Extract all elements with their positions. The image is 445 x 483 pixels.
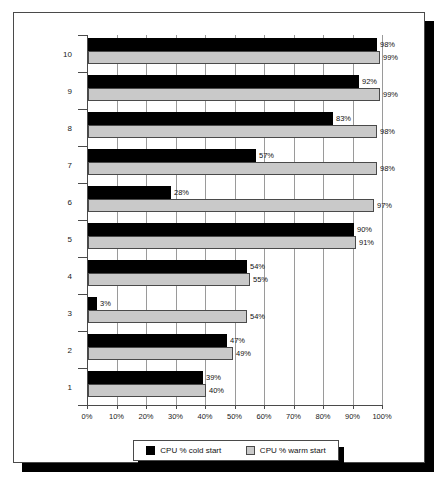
bar-value-label: 47% [230,336,245,345]
bar-cold-start [88,223,354,236]
bar-value-label: 3% [100,299,111,308]
y-axis-tick [78,220,87,221]
y-axis-category-label: 7 [44,161,72,170]
x-axis-tick-label: 50% [220,412,250,421]
bar-value-label: 98% [380,164,395,173]
x-axis-tick-label: 60% [249,412,279,421]
x-axis-tick [205,405,206,409]
bar-value-label: 28% [174,188,189,197]
y-axis-category-label: 10 [44,50,72,59]
bar-cold-start [88,297,97,310]
legend-swatch-warm-icon [246,446,255,455]
y-axis-category-label: 2 [44,346,72,355]
bar-value-label: 99% [383,53,398,62]
bar-warm-start [88,125,377,138]
legend-label: CPU % warm start [260,446,326,455]
y-axis-category-label: 6 [44,198,72,207]
plot-area: 10987654321 0%10%20%30%40%50%60%70%80%90… [74,35,404,410]
bar-cold-start [88,149,256,162]
legend-item: CPU % warm start [246,446,326,455]
bar-cold-start [88,186,171,199]
x-axis-tick-label: 10% [102,412,132,421]
y-axis-tick [78,257,87,258]
bar-warm-start [88,384,206,397]
bar-warm-start [88,236,356,249]
bar-value-label: 98% [380,127,395,136]
y-axis-category-label: 5 [44,235,72,244]
y-axis-category-label: 4 [44,272,72,281]
bar-value-label: 97% [377,201,392,210]
y-axis-tick [78,331,87,332]
chart-legend: CPU % cold startCPU % warm start [133,440,339,461]
bar-warm-start [88,199,374,212]
bar-value-label: 91% [359,238,374,247]
x-axis-tick [146,405,147,409]
bar-value-label: 57% [259,151,274,160]
legend-label: CPU % cold start [160,446,221,455]
bar-cold-start [88,38,377,51]
x-axis-tick [294,405,295,409]
y-axis-category-label: 3 [44,309,72,318]
bar-warm-start [88,51,380,64]
y-axis-tick [78,72,87,73]
legend-item: CPU % cold start [146,446,221,455]
bar-value-label: 54% [250,262,265,271]
x-axis-tick [117,405,118,409]
screenshot-root: 10987654321 0%10%20%30%40%50%60%70%80%90… [0,0,445,483]
bar-cold-start [88,260,247,273]
bar-warm-start [88,162,377,175]
bar-warm-start [88,310,247,323]
bar-value-label: 99% [383,90,398,99]
x-axis-tick-label: 40% [190,412,220,421]
y-axis-tick [78,294,87,295]
x-axis-tick-label: 100% [367,412,397,421]
bar-cold-start [88,75,359,88]
x-axis-tick [353,405,354,409]
x-axis-tick [264,405,265,409]
y-axis-tick [78,146,87,147]
x-axis-tick [87,405,88,409]
bar-value-label: 92% [362,77,377,86]
bar-warm-start [88,88,380,101]
bar-value-label: 55% [253,275,268,284]
y-axis-tick [78,368,87,369]
y-axis-tick [78,183,87,184]
y-axis-category-label: 9 [44,87,72,96]
bar-cold-start [88,371,203,384]
x-axis-tick-label: 70% [279,412,309,421]
y-axis-tick [78,35,87,36]
bar-value-label: 39% [206,373,221,382]
y-axis-tick [78,109,87,110]
x-axis-tick-label: 0% [72,412,102,421]
x-axis-tick [235,405,236,409]
x-axis-tick-label: 90% [338,412,368,421]
bar-cold-start [88,112,333,125]
y-axis-category-label: 8 [44,124,72,133]
bar-warm-start [88,273,250,286]
bar-value-label: 83% [336,114,351,123]
chart-frame: 10987654321 0%10%20%30%40%50%60%70%80%90… [13,12,425,463]
x-axis-tick-label: 30% [161,412,191,421]
x-axis-tick-label: 80% [308,412,338,421]
bar-value-label: 90% [357,225,372,234]
bar-value-label: 54% [250,312,265,321]
legend-swatch-cold-icon [146,446,155,455]
bar-value-label: 49% [236,349,251,358]
y-axis-category-label: 1 [44,383,72,392]
x-axis-tick [323,405,324,409]
bar-value-label: 40% [209,386,224,395]
bar-cold-start [88,334,227,347]
bar-warm-start [88,347,233,360]
x-axis-tick [176,405,177,409]
bar-value-label: 98% [380,40,395,49]
y-axis-tick [78,405,87,406]
x-axis-tick [382,405,383,409]
x-axis-tick-label: 20% [131,412,161,421]
